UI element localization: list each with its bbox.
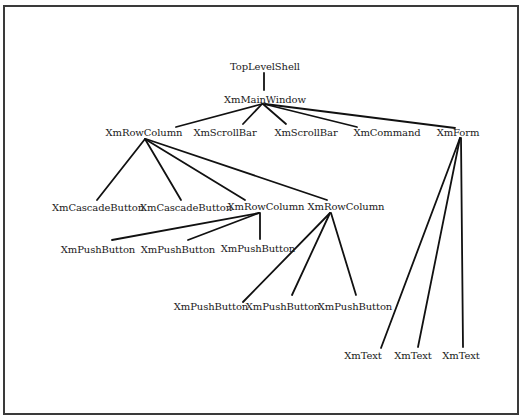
edge-n9-n11 <box>112 213 259 240</box>
node-xmrowcolumn: XmRowColumn <box>228 201 305 212</box>
edge-n10-n14 <box>243 213 330 302</box>
node-xmscrollbar: XmScrollBar <box>274 127 337 138</box>
node-xmpushbutton: XmPushButton <box>221 243 295 254</box>
node-xmrowcolumn: XmRowColumn <box>106 127 183 138</box>
edge-n10-n16 <box>331 213 356 295</box>
node-xmscrollbar: XmScrollBar <box>193 127 256 138</box>
edge-n9-n12 <box>188 213 259 240</box>
edge-n1-n6 <box>265 104 455 128</box>
edge-n2-n9 <box>145 139 245 200</box>
node-xmpushbutton: XmPushButton <box>174 301 248 312</box>
node-xmpushbutton: XmPushButton <box>318 301 392 312</box>
node-xmmainwindow: XmMainWindow <box>224 94 306 105</box>
node-xmcascadebutton: XmCascadeButton <box>52 202 144 213</box>
node-xmpushbutton: XmPushButton <box>61 244 135 255</box>
node-xmtext: XmText <box>344 350 381 361</box>
edge-n1-n5 <box>264 104 357 127</box>
edge-n6-n17 <box>381 138 460 348</box>
edge-n10-n15 <box>292 213 330 295</box>
edge-n2-n10 <box>146 139 327 200</box>
edge-n2-n7 <box>97 139 145 200</box>
node-toplevelshell: TopLevelShell <box>230 61 300 72</box>
node-xmcascadebutton: XmCascadeButton <box>140 202 232 213</box>
node-xmrowcolumn: XmRowColumn <box>308 201 385 212</box>
node-xmtext: XmText <box>442 350 479 361</box>
edge-n1-n2 <box>176 104 262 127</box>
node-xmpushbutton: XmPushButton <box>141 244 215 255</box>
edge-n6-n18 <box>418 138 460 347</box>
edge-n6-n19 <box>461 138 463 347</box>
node-xmcommand: XmCommand <box>353 127 420 138</box>
node-xmpushbutton: XmPushButton <box>246 301 320 312</box>
node-xmform: XmForm <box>437 127 480 138</box>
node-xmtext: XmText <box>394 350 431 361</box>
